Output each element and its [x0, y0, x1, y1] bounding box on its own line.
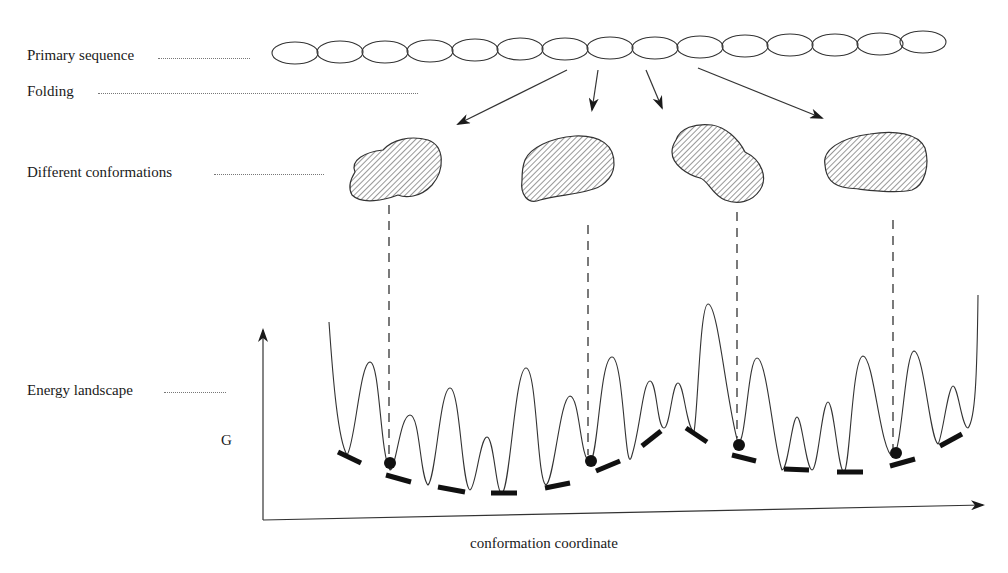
folding-arrow-2 — [592, 70, 598, 110]
folding-arrow-1 — [458, 70, 567, 124]
folding-arrows — [458, 68, 822, 124]
protein-folding-diagram — [0, 0, 1008, 573]
conformation-4 — [825, 132, 927, 191]
folding-arrow-4 — [698, 68, 822, 118]
ball-icon — [585, 455, 597, 467]
conformation-2 — [522, 136, 614, 201]
conformation-1 — [350, 138, 441, 201]
ball-icon — [384, 457, 396, 469]
energy-landscape-curve — [329, 295, 978, 493]
x-axis — [263, 505, 983, 520]
conformation-3 — [672, 125, 764, 203]
local-minima-markers — [338, 428, 962, 493]
ball-icon — [733, 439, 745, 451]
primary-sequence-chain — [272, 31, 946, 64]
conformation-drop-lines — [389, 205, 893, 458]
ball-icon — [890, 447, 902, 459]
axes — [263, 330, 983, 520]
folding-arrow-3 — [646, 70, 662, 108]
